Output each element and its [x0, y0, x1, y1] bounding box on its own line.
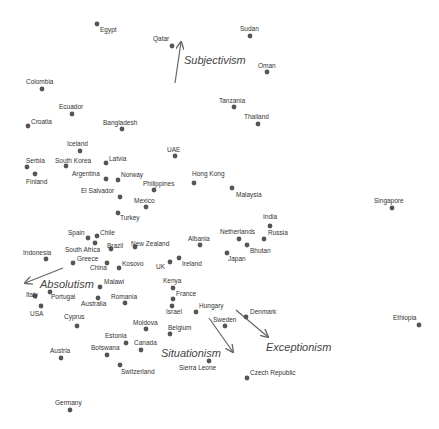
data-point: Brazil	[107, 242, 124, 251]
point-label: Norway	[121, 171, 144, 179]
vector-label: Situationism	[161, 347, 221, 359]
point-marker	[116, 178, 121, 183]
point-label: UK	[156, 263, 166, 270]
data-point: Iceland	[67, 140, 88, 153]
point-label: USA	[30, 310, 44, 317]
point-marker	[139, 348, 144, 353]
point-label: Switzerland	[121, 368, 155, 375]
point-marker	[152, 188, 157, 193]
point-label: Thailand	[244, 113, 269, 120]
point-marker	[98, 285, 103, 290]
point-label: Ecuador	[59, 103, 84, 110]
data-point: Colombia	[26, 78, 54, 91]
point-label: Portugal	[51, 293, 76, 301]
point-marker	[104, 177, 109, 182]
data-point: UK	[156, 260, 172, 270]
point-marker	[245, 376, 250, 381]
point-marker	[124, 341, 129, 346]
point-label: Canada	[134, 339, 157, 346]
point-label: Iceland	[67, 140, 88, 147]
point-marker	[104, 161, 109, 166]
point-label: Estonia	[105, 332, 127, 339]
point-label: Ethiopia	[393, 314, 417, 322]
point-label: Germany	[55, 399, 82, 407]
data-point: Austria	[50, 347, 71, 360]
data-point: Kosovo	[117, 260, 144, 270]
point-marker	[417, 323, 422, 328]
point-label: Czech Republic	[250, 369, 296, 377]
data-point: Indonesia	[23, 249, 52, 261]
data-point: India	[263, 213, 277, 228]
data-point: Japan	[225, 251, 246, 263]
data-point: South Africa	[65, 241, 100, 253]
data-point: Bhutan	[245, 243, 271, 254]
data-point: Bangladesh	[103, 119, 138, 131]
point-label: Albania	[188, 235, 210, 242]
point-marker	[244, 315, 249, 320]
point-label: Argentina	[72, 170, 100, 178]
vector-label: Absolutism	[39, 278, 94, 290]
point-marker	[207, 359, 212, 364]
point-label: Serbia	[26, 157, 45, 164]
point-label: Latvia	[109, 155, 127, 162]
point-marker	[171, 286, 176, 291]
point-label: Tanzania	[219, 97, 245, 104]
point-label: China	[90, 264, 107, 271]
point-label: Sweden	[213, 316, 237, 323]
data-point: Finland	[26, 172, 48, 185]
data-point: Switzerland	[118, 363, 155, 375]
data-point: UAE	[167, 146, 181, 158]
point-label: Sierra Leone	[179, 364, 217, 371]
point-marker	[265, 70, 270, 75]
data-point: Hungary	[194, 302, 225, 314]
data-point: Sweden	[213, 316, 237, 328]
point-marker	[70, 112, 75, 117]
point-marker	[192, 181, 197, 186]
point-label: Egypt	[100, 26, 117, 34]
point-marker	[230, 186, 235, 191]
point-label: South Korea	[55, 157, 92, 164]
data-point: Serbia	[25, 157, 46, 169]
data-point: Sudan	[240, 25, 259, 38]
point-marker	[118, 363, 123, 368]
point-label: Hungary	[199, 302, 224, 310]
point-marker	[93, 241, 98, 246]
data-point: Tanzania	[219, 97, 245, 109]
data-point: Germany	[55, 399, 82, 412]
point-label: Netherlands	[220, 228, 256, 235]
point-marker	[198, 243, 203, 248]
point-marker	[144, 327, 149, 332]
point-label: Botswana	[91, 344, 120, 351]
point-marker	[123, 301, 128, 306]
point-label: Kenya	[163, 277, 182, 285]
point-label: Finland	[26, 178, 48, 185]
point-marker	[59, 356, 64, 361]
point-label: Kosovo	[122, 260, 144, 267]
data-point: Singapore	[374, 197, 404, 210]
point-label: Philippines	[143, 180, 175, 188]
point-label: Russia	[268, 229, 288, 236]
point-marker	[25, 165, 30, 170]
point-label: Turkey	[120, 214, 140, 222]
vector-arrow	[175, 42, 181, 83]
point-marker	[245, 243, 250, 248]
point-label: Oman	[258, 62, 276, 69]
point-marker	[173, 154, 178, 159]
data-point: Belgium	[168, 324, 192, 336]
point-marker	[78, 149, 83, 154]
data-point: Ireland	[177, 256, 203, 267]
point-marker	[268, 224, 273, 229]
point-marker	[44, 257, 49, 262]
data-point: Latvia	[104, 155, 127, 165]
data-point: Israel	[166, 304, 182, 315]
point-label: Chile	[100, 229, 115, 236]
point-label: Croatia	[31, 118, 52, 125]
scatter-plot: SubjectivismAbsolutismSituationismExcept…	[0, 0, 439, 429]
data-point: El Salvador	[81, 187, 122, 199]
data-point: Netherlands	[220, 228, 256, 241]
point-marker	[262, 237, 267, 242]
point-label: Italy	[26, 291, 39, 299]
point-label: Sudan	[240, 25, 259, 32]
point-label: Denmark	[250, 308, 277, 315]
data-point: Romania	[111, 293, 137, 305]
